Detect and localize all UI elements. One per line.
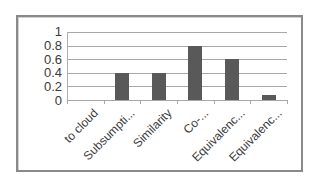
bar [115, 73, 129, 100]
x-tick [104, 100, 105, 104]
bar [262, 95, 276, 100]
x-tick [67, 100, 68, 104]
x-tick [214, 100, 215, 104]
y-tick-label: 1 [22, 25, 62, 38]
gridline [67, 73, 287, 74]
y-tick-label: 0.2 [22, 80, 62, 93]
gridline [67, 46, 287, 47]
plot-area [67, 32, 287, 100]
bar [225, 59, 239, 100]
bar [152, 73, 166, 100]
y-tick-label: 0.4 [22, 66, 62, 79]
gridline [67, 32, 287, 33]
gridline [67, 59, 287, 60]
y-tick-label: 0.8 [22, 39, 62, 52]
bar [188, 46, 202, 100]
x-tick [250, 100, 251, 104]
gridline [67, 86, 287, 87]
x-tick [287, 100, 288, 104]
y-tick-label: 0 [22, 94, 62, 107]
x-tick [140, 100, 141, 104]
x-tick [177, 100, 178, 104]
y-axis-line [67, 32, 68, 100]
